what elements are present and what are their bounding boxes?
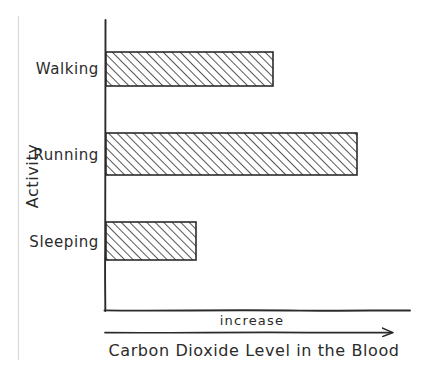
x-axis-title: Carbon Dioxide Level in the Blood (108, 341, 399, 360)
bar-chart-figure: Walking Running Sleeping Activity increa… (0, 0, 442, 373)
y-tick-label-walking: Walking (36, 60, 99, 78)
bar-walking (106, 52, 273, 86)
y-axis-title: Activity (23, 144, 42, 209)
bar-running (106, 133, 357, 175)
chart-canvas: Walking Running Sleeping Activity increa… (0, 0, 442, 373)
bar-rect (106, 222, 196, 260)
bar-rect (106, 133, 357, 175)
y-tick-label-running: Running (33, 146, 99, 164)
increase-label: increase (220, 313, 284, 328)
y-tick-label-sleeping: Sleeping (29, 233, 99, 251)
bar-rect (106, 52, 273, 86)
bar-sleeping (106, 222, 196, 260)
